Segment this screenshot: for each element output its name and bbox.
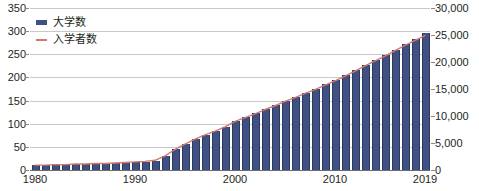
right-axis-tick-mark	[431, 143, 435, 144]
chart-container: 050100150200250300350 05,00010,00015,000…	[0, 0, 479, 191]
right-axis-tick-mark	[431, 62, 435, 63]
legend-item-enrollment: 入学者数	[36, 31, 97, 48]
left-axis-tick-mark	[25, 147, 29, 148]
legend-line-swatch-icon	[36, 39, 47, 41]
right-axis-tick-mark	[431, 89, 435, 90]
left-axis-tick-label: 350	[0, 3, 26, 14]
left-axis-tick-label: 150	[0, 96, 26, 107]
left-axis-tick-label: 250	[0, 49, 26, 60]
x-axis-tick-label: 2019	[413, 174, 437, 185]
x-axis-tick-label: 1990	[123, 174, 147, 185]
right-axis-tick-label: 5,000	[435, 138, 463, 149]
right-axis-tick-label: 25,000	[435, 30, 469, 41]
left-axis-tick-mark	[25, 8, 29, 9]
right-axis-tick-mark	[431, 170, 435, 171]
right-axis-tick-mark	[431, 8, 435, 9]
legend-bar-swatch-icon	[36, 20, 47, 25]
left-axis-tick-label: 300	[0, 26, 26, 37]
left-axis-tick-mark	[25, 31, 29, 32]
chart-legend: 大学数 入学者数	[36, 14, 97, 48]
legend-label-enrollment: 入学者数	[53, 34, 97, 45]
left-axis-tick-label: 200	[0, 72, 26, 83]
right-axis-tick-label: 20,000	[435, 57, 469, 68]
gridline	[30, 170, 430, 171]
left-axis-tick-mark	[25, 54, 29, 55]
right-axis-tick-label: 10,000	[435, 111, 469, 122]
legend-label-university-count: 大学数	[53, 17, 86, 28]
left-axis-tick-mark	[25, 170, 29, 171]
left-axis-tick-label: 50	[0, 142, 26, 153]
left-axis-tick-mark	[25, 101, 29, 102]
x-axis-tick-label: 2000	[223, 174, 247, 185]
legend-item-university-count: 大学数	[36, 14, 97, 31]
right-axis-tick-label: 30,000	[435, 3, 469, 14]
right-axis-tick-label: 15,000	[435, 84, 469, 95]
right-axis-tick-mark	[431, 35, 435, 36]
left-axis-tick-mark	[25, 124, 29, 125]
x-axis-tick-label: 2010	[323, 174, 347, 185]
right-axis-tick-mark	[431, 116, 435, 117]
left-axis-tick-mark	[25, 77, 29, 78]
left-axis-tick-label: 100	[0, 119, 26, 130]
x-axis-tick-label: 1980	[23, 174, 47, 185]
